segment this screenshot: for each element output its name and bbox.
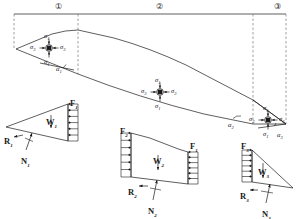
free-body-1-shape bbox=[6, 104, 68, 141]
slope-stability-figure: ①②③σ1σ3σ3σ1σ1σ3σ3σ1σ1σ3σ3σ1α1α2α3F1W1R1N… bbox=[0, 0, 298, 219]
figure-canvas bbox=[0, 0, 298, 219]
alpha-1-angle bbox=[40, 63, 74, 70]
slope-body-outline bbox=[16, 30, 286, 124]
stress-element-2-glyph bbox=[151, 83, 170, 102]
react-R1-arrow bbox=[14, 135, 23, 137]
normal-N3-arrow bbox=[261, 184, 273, 203]
alpha-2-angle bbox=[233, 116, 241, 119]
normal-N1-arrow bbox=[25, 133, 33, 150]
free-body-3-shape bbox=[252, 150, 293, 188]
force-F3-distribution bbox=[242, 149, 252, 182]
force-F1-right-distribution bbox=[188, 151, 198, 184]
force-F1-distribution bbox=[68, 103, 78, 141]
stress-element-1-glyph bbox=[40, 39, 59, 58]
free-body-2-shape bbox=[131, 133, 188, 184]
force-F2-distribution bbox=[121, 132, 131, 177]
normal-N2-arrow bbox=[150, 180, 161, 200]
